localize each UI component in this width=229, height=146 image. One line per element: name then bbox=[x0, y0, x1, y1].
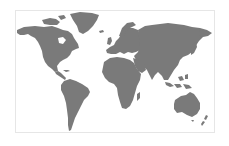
greenland bbox=[70, 12, 99, 34]
south-america bbox=[61, 79, 90, 131]
madagascar bbox=[137, 92, 140, 101]
caribbean bbox=[63, 70, 70, 72]
tasmania bbox=[191, 120, 194, 122]
arctic-islands bbox=[42, 15, 66, 25]
central-america bbox=[55, 71, 66, 80]
iceland bbox=[99, 30, 104, 33]
uk bbox=[107, 37, 112, 45]
world-map bbox=[0, 0, 229, 146]
new-zealand bbox=[201, 115, 208, 126]
north-america bbox=[17, 26, 79, 72]
australia bbox=[174, 92, 200, 117]
